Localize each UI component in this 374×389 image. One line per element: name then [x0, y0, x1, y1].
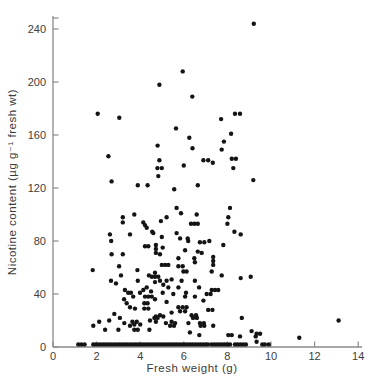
data-point: [195, 316, 199, 320]
data-point: [181, 305, 185, 309]
data-point: [229, 132, 233, 136]
x-tick-label: 6: [181, 350, 187, 362]
data-point: [136, 183, 140, 187]
data-point: [188, 330, 192, 334]
y-axis-label: Nicotine content (µg g⁻¹ fresh wt): [6, 89, 18, 275]
data-point: [195, 212, 199, 216]
data-point: [193, 279, 197, 283]
data-point: [131, 294, 135, 298]
y-ticks: 04080120160200240: [28, 18, 59, 353]
data-point: [202, 324, 206, 328]
data-point: [96, 112, 100, 116]
data-point: [225, 222, 229, 226]
data-point: [172, 324, 176, 328]
data-point: [254, 340, 258, 344]
data-point: [136, 279, 140, 283]
data-point: [230, 157, 234, 161]
data-point: [146, 244, 150, 248]
data-point: [191, 316, 195, 320]
data-point: [232, 230, 236, 234]
y-tick-label: 80: [34, 235, 46, 247]
data-point: [254, 334, 258, 338]
data-point: [118, 316, 122, 320]
data-point: [178, 236, 182, 240]
data-point: [211, 324, 215, 328]
x-axis-label: Fresh weight (g): [146, 362, 237, 374]
data-point: [91, 324, 95, 328]
x-tick-label: 2: [94, 350, 100, 362]
data-point: [202, 240, 206, 244]
data-point: [216, 288, 220, 292]
data-point: [263, 342, 267, 346]
data-point: [206, 308, 210, 312]
data-point: [145, 301, 149, 305]
data-point: [178, 309, 182, 313]
data-point: [251, 178, 255, 182]
data-point: [221, 243, 225, 247]
data-point: [164, 279, 168, 283]
data-point: [226, 215, 230, 219]
y-tick-label: 120: [28, 182, 46, 194]
data-point: [109, 252, 113, 256]
data-point: [182, 163, 186, 167]
data-point: [138, 291, 142, 295]
data-point: [183, 294, 187, 298]
data-point: [176, 256, 180, 260]
data-point: [239, 232, 243, 236]
data-point: [133, 306, 137, 310]
data-point: [211, 255, 215, 259]
data-point: [176, 285, 180, 289]
data-point: [198, 240, 202, 244]
data-point: [174, 231, 178, 235]
data-point: [161, 291, 165, 295]
data-point: [166, 285, 170, 289]
data-point: [190, 146, 194, 150]
data-point: [184, 305, 188, 309]
data-point: [239, 276, 243, 280]
data-point: [192, 256, 196, 260]
x-tick-label: 10: [265, 350, 277, 362]
data-point: [82, 342, 86, 346]
data-point: [91, 268, 95, 272]
data-points: [76, 22, 341, 347]
data-point: [169, 310, 173, 314]
data-point: [158, 279, 162, 283]
data-point: [234, 157, 238, 161]
data-point: [108, 232, 112, 236]
data-point: [176, 305, 180, 309]
data-point: [149, 289, 153, 293]
data-point: [153, 271, 157, 275]
data-point: [208, 292, 212, 296]
data-point: [179, 279, 183, 283]
data-point: [160, 166, 164, 170]
data-point: [197, 333, 201, 337]
data-point: [220, 273, 224, 277]
data-point: [161, 283, 165, 287]
data-point: [233, 112, 237, 116]
data-point: [156, 275, 160, 279]
y-tick-label: 0: [40, 341, 46, 353]
data-point: [258, 332, 262, 336]
data-point: [121, 252, 125, 256]
data-point: [196, 222, 200, 226]
data-point: [187, 136, 191, 140]
data-point: [103, 328, 107, 332]
data-point: [200, 251, 204, 255]
data-point: [153, 280, 157, 284]
data-point: [109, 179, 113, 183]
data-point: [211, 263, 215, 267]
data-point: [222, 139, 226, 143]
data-point: [210, 269, 214, 273]
data-point: [156, 174, 160, 178]
data-point: [228, 206, 232, 210]
data-point: [128, 305, 132, 309]
data-point: [171, 292, 175, 296]
data-point: [196, 183, 200, 187]
data-point: [196, 249, 200, 253]
data-point: [238, 334, 242, 338]
data-point: [231, 166, 235, 170]
data-point: [211, 259, 215, 263]
data-point: [249, 329, 253, 333]
data-point: [228, 342, 232, 346]
data-point: [153, 297, 157, 301]
